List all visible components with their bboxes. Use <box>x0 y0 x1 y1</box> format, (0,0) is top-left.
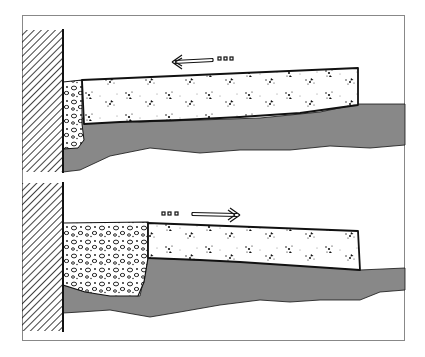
slab-movement-diagram <box>0 0 425 357</box>
gravel-fill <box>63 222 148 296</box>
gravel-strip <box>63 80 84 149</box>
retaining-wall <box>22 30 63 172</box>
retaining-wall <box>22 183 63 331</box>
